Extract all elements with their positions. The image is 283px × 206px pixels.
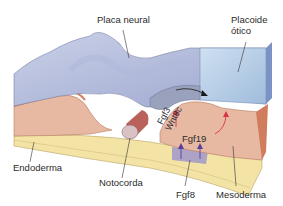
notochord-end	[122, 125, 138, 139]
label-notochord: Notocorda	[99, 177, 143, 188]
embryo-diagram: Placa neural Placoide ótico Endoderma No…	[0, 0, 283, 206]
label-endoderm: Endoderma	[13, 162, 62, 173]
label-mesoderm: Mesoderma	[216, 189, 266, 200]
label-fgf8: Fgf8	[176, 189, 195, 200]
label-fgf19: Fgf19	[182, 133, 206, 144]
label-otic-placode-1: Placoide	[231, 14, 267, 25]
label-neural-plate: Placa neural	[97, 14, 150, 25]
label-otic-placode-2: ótico	[231, 25, 251, 36]
otic-placode	[200, 48, 266, 104]
